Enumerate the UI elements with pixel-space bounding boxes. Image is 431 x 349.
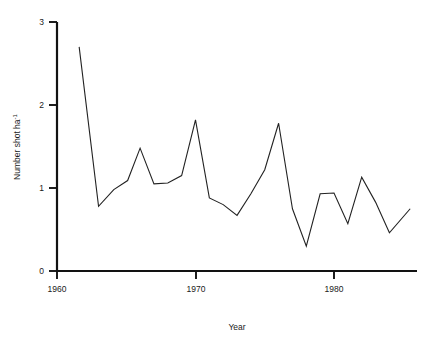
x-tick-label-1960: 1960	[48, 284, 67, 294]
y-axis-title-text: Number shot ha	[12, 119, 22, 180]
x-axis-title: Year	[228, 322, 245, 332]
y-tick-label-3: 3	[39, 17, 44, 27]
data-series-line	[79, 47, 410, 246]
x-tick-label-1980: 1980	[325, 284, 344, 294]
line-chart: 3 2 1 0 1960 1970 1980 Number shot ha-1 …	[0, 0, 431, 349]
figure-container: 3 2 1 0 1960 1970 1980 Number shot ha-1 …	[0, 0, 431, 349]
y-axis-title-exponent: -1	[12, 113, 18, 119]
y-axis-title-group: Number shot ha-1	[12, 113, 22, 179]
x-tick-label-1970: 1970	[187, 284, 206, 294]
y-tick-label-2: 2	[39, 100, 44, 110]
y-tick-label-0: 0	[39, 266, 44, 276]
y-axis-title: Number shot ha-1	[12, 113, 22, 179]
y-tick-label-1: 1	[39, 183, 44, 193]
